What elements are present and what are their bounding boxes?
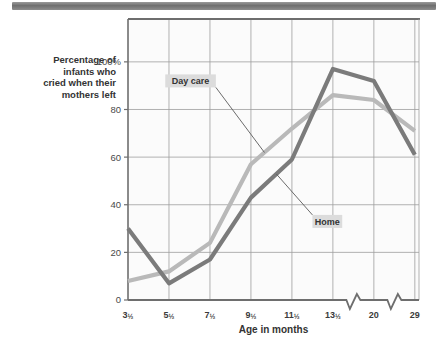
x-tick-label: 3½ bbox=[123, 310, 134, 320]
series-label: Home bbox=[315, 217, 340, 227]
line-chart: 020406080100%3½5½7½9½11½13½2029Age in mo… bbox=[0, 0, 436, 339]
x-axis-title: Age in months bbox=[239, 324, 309, 335]
y-tick-label: 0 bbox=[116, 294, 121, 305]
x-tick-label: 13½ bbox=[325, 310, 341, 320]
x-tick-label: 20 bbox=[369, 310, 379, 320]
y-tick-label: 80 bbox=[110, 104, 121, 115]
y-tick-label: 100% bbox=[97, 56, 122, 67]
plot-background bbox=[128, 19, 419, 300]
x-tick-label: 7½ bbox=[205, 310, 216, 320]
grid-layer bbox=[128, 19, 420, 300]
x-tick-label: 29 bbox=[410, 310, 420, 320]
y-tick-label: 40 bbox=[110, 199, 121, 210]
x-tick-label: 9½ bbox=[246, 310, 257, 320]
y-axis-ticks: 020406080100% bbox=[97, 56, 128, 305]
y-tick-label: 60 bbox=[110, 152, 121, 163]
figure-container: Percentage of infants who cried when the… bbox=[0, 0, 436, 339]
y-tick-label: 20 bbox=[110, 247, 121, 258]
series-label: Day care bbox=[172, 76, 210, 86]
x-axis-ticks: 3½5½7½9½11½13½2029 bbox=[123, 310, 420, 320]
x-tick-label: 11½ bbox=[284, 310, 300, 320]
x-tick-label: 5½ bbox=[164, 310, 175, 320]
